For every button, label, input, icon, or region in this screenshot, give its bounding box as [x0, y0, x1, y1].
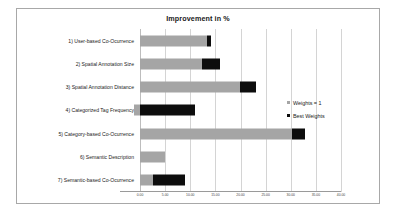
- chart-container: Improvement in % 1) User-based Co-Ocurre…: [16, 8, 380, 204]
- legend-label: Best Weights: [293, 113, 325, 119]
- bar-segment[interactable]: [140, 175, 153, 186]
- bar-segment[interactable]: [153, 175, 185, 186]
- bar-track: [140, 35, 341, 46]
- category-label: 3) Spatial Annotation Distance: [20, 84, 134, 90]
- x-axis-line: [120, 191, 341, 192]
- chart-row: 2) Spatial Annotation Size: [20, 52, 341, 75]
- category-label: 4) Categorized Tag Frequency: [20, 107, 134, 113]
- chart-row: 1) User-based Co-Ocurrence: [20, 29, 341, 52]
- chart-title: Improvement in %: [17, 14, 379, 23]
- bar-track: [140, 82, 341, 93]
- bar-track: [140, 58, 341, 69]
- legend-entry[interactable]: Best Weights: [287, 110, 373, 121]
- chart-row: 5) Category-based Co-Ocurrence: [20, 122, 341, 145]
- category-label: 1) User-based Co-Ocurrence: [20, 38, 134, 44]
- legend-swatch-icon: [287, 114, 290, 117]
- x-tick-label: 0.00: [137, 193, 144, 197]
- legend-entry[interactable]: Weights = 1: [287, 97, 373, 108]
- bar-segment[interactable]: [140, 128, 292, 139]
- legend-label: Weights = 1: [293, 100, 322, 106]
- x-tick-label: 15.00: [211, 193, 220, 197]
- chart-legend: Weights = 1Best Weights: [287, 97, 373, 123]
- x-tick-label: 30.00: [287, 193, 296, 197]
- bar-segment[interactable]: [202, 58, 220, 69]
- legend-swatch-icon: [287, 101, 290, 104]
- bar-track: [140, 128, 341, 139]
- x-tick-label: 25.00: [261, 193, 270, 197]
- category-label: 2) Spatial Annotation Size: [20, 61, 134, 67]
- x-tick-label: 5.00: [162, 193, 169, 197]
- bar-segment[interactable]: [140, 105, 195, 116]
- bar-segment[interactable]: [140, 58, 202, 69]
- category-label: 7) Semantic-based Co-Ocurrence: [20, 177, 134, 183]
- bar-track: [140, 175, 341, 186]
- category-label: 6) Semantic Description: [20, 154, 134, 160]
- bar-segment[interactable]: [140, 35, 207, 46]
- chart-row: 3) Spatial Annotation Distance: [20, 76, 341, 99]
- x-tick-label: 35.00: [312, 193, 321, 197]
- bar-segment[interactable]: [292, 128, 305, 139]
- chart-row: 6) Semantic Description: [20, 145, 341, 168]
- bar-segment[interactable]: [207, 35, 211, 46]
- x-tick-label: 20.00: [236, 193, 245, 197]
- bar-segment[interactable]: [140, 152, 165, 163]
- x-axis-tick-labels: 0.005.0010.0015.0020.0025.0030.0035.0040…: [140, 193, 341, 203]
- chart-row: 7) Semantic-based Co-Ocurrence: [20, 169, 341, 192]
- x-tick-label: 40.00: [337, 193, 346, 197]
- bar-segment[interactable]: [240, 82, 256, 93]
- category-label: 5) Category-based Co-Ocurrence: [20, 131, 134, 137]
- x-tick-label: 10.00: [186, 193, 195, 197]
- bar-segment[interactable]: [140, 82, 240, 93]
- bar-track: [140, 152, 341, 163]
